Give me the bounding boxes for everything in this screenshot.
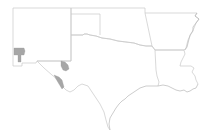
state-louisiana bbox=[155, 50, 198, 84]
texas-west-border bbox=[37, 35, 110, 130]
state-texas bbox=[71, 34, 159, 86]
texas-gulf-coast bbox=[109, 86, 158, 130]
map bbox=[0, 0, 214, 133]
highlighted-county-west-texas-north[interactable] bbox=[61, 61, 69, 71]
highlighted-county-sw-new-mexico[interactable] bbox=[14, 48, 25, 62]
state-arkansas bbox=[145, 13, 199, 50]
oklahoma-panhandle-line bbox=[71, 14, 100, 35]
state-map-svg bbox=[0, 0, 214, 133]
louisiana-gulf-coast bbox=[158, 84, 198, 92]
highlighted-county-west-texas-south[interactable] bbox=[54, 75, 64, 89]
state-new-mexico bbox=[13, 8, 71, 66]
